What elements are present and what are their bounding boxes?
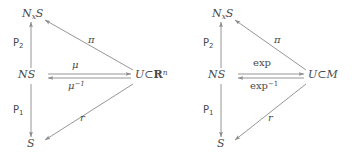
label-p2: P2 (203, 38, 214, 50)
arrow-r (45, 84, 133, 140)
label-pi: π (88, 35, 95, 45)
label-p2: P2 (13, 38, 24, 50)
label-r: r (80, 113, 85, 123)
node-nxs: NxS (22, 8, 43, 20)
node-ns: NS (18, 69, 35, 80)
arrow-pi (45, 20, 133, 70)
node-ns: NS (208, 69, 225, 80)
commutative-diagram-right: NxS NS S U⊂M P2 P1 π r exp exp−1 (178, 0, 355, 156)
node-s: S (217, 138, 225, 149)
node-nxs: NxS (212, 8, 233, 20)
label-pi: π (274, 35, 281, 45)
label-p1: P1 (203, 105, 214, 117)
label-mu: μ (72, 60, 79, 70)
label-mu-inverse: μ−1 (68, 81, 85, 91)
label-exp-inverse: exp−1 (250, 81, 278, 91)
node-u-subset-rn: U⊂Rn (135, 69, 168, 80)
node-s: S (27, 138, 35, 149)
label-exp: exp (253, 58, 271, 68)
node-u-subset-m: U⊂M (308, 69, 338, 80)
label-r: r (268, 113, 273, 123)
commutative-diagram-left: NxS NS S U⊂Rn P2 P1 π r μ μ−1 (0, 0, 177, 156)
diagram-canvas: NxS NS S U⊂Rn P2 P1 π r μ μ−1 NxS NS (0, 0, 355, 156)
label-p1: P1 (13, 105, 24, 117)
